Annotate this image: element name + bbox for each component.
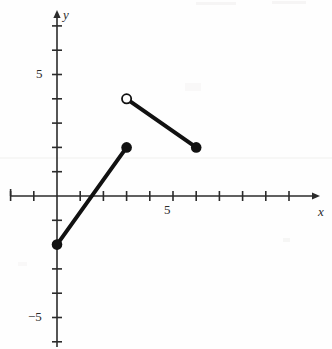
y-axis-group [52,10,62,347]
graph-figure: x y 5 5 −5 [0,0,332,349]
x-tick-label-5: 5 [164,202,171,218]
x-axis-label: x [318,204,324,220]
y-axis-label: y [63,7,69,23]
segment-2-line [131,102,197,148]
x-axis-arrow [312,192,320,199]
y-tick-label-5: 5 [36,66,43,82]
segment-1-endpoint-1-closed [52,239,63,250]
segment-2-group [122,94,202,152]
y-axis-arrow [53,10,60,18]
segment-2-endpoint-1-open [122,94,131,103]
segment-2-endpoint-2-closed [191,142,202,153]
y-tick-label-negative-5: −5 [28,309,42,325]
coordinate-plane [0,0,332,349]
segment-1-endpoint-2-closed [121,142,132,153]
